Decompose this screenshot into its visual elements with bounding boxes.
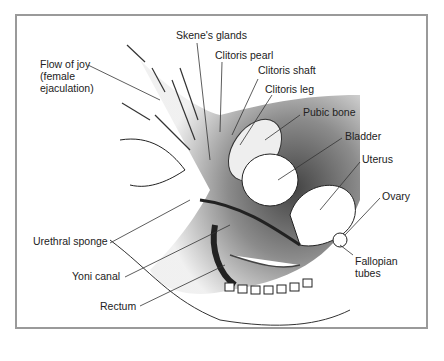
- label-skenes-glands: Skene's glands: [176, 29, 247, 41]
- label-flow-of-joy-ejaculation: ejaculation): [40, 82, 94, 94]
- label-uterus: Uterus: [362, 153, 393, 165]
- label-bladder: Bladder: [345, 130, 381, 142]
- label-flow-of-joy: Flow of joy: [40, 58, 90, 70]
- label-yoni-canal: Yoni canal: [72, 270, 120, 282]
- label-clitoris-leg: Clitoris leg: [265, 83, 314, 95]
- label-ovary: Ovary: [382, 190, 410, 202]
- label-clitoris-pearl: Clitoris pearl: [215, 49, 273, 61]
- label-urethral-sponge: Urethral sponge: [33, 235, 108, 247]
- label-pubic-bone: Pubic bone: [303, 106, 356, 118]
- label-fallopian-tubes: tubes: [355, 267, 381, 279]
- label-clitoris-shaft: Clitoris shaft: [258, 64, 316, 76]
- label-flow-of-joy-female: (female: [40, 70, 75, 82]
- label-fallopian: Fallopian: [355, 255, 398, 267]
- label-rectum: Rectum: [100, 300, 136, 312]
